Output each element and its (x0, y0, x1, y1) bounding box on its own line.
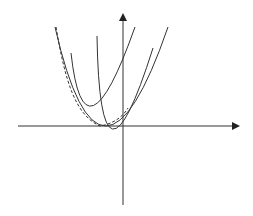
diagram-canvas (0, 0, 253, 216)
parabola-1 (71, 27, 135, 106)
parabola-3 (55, 27, 168, 126)
envelope-curve (56, 27, 128, 126)
diagram (0, 0, 253, 216)
